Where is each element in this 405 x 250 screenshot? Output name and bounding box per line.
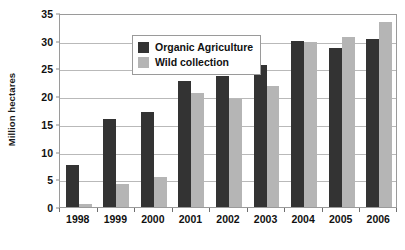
bar-2000-organic-agriculture xyxy=(141,112,154,207)
y-axis-title: Million hectares xyxy=(0,0,24,218)
x-axis-tick-label-1999: 1999 xyxy=(104,214,127,225)
x-axis-tick-mark xyxy=(134,208,135,212)
bar-2003-organic-agriculture xyxy=(254,65,267,207)
y-axis-tick-label: 20 xyxy=(41,92,53,103)
bar-group-2005 xyxy=(323,15,361,207)
bar-2002-wild-collection xyxy=(229,99,242,207)
bar-1999-wild-collection xyxy=(116,184,129,207)
bar-1998-organic-agriculture xyxy=(66,165,79,207)
bar-2001-wild-collection xyxy=(191,93,204,207)
x-axis-tick-mark xyxy=(359,208,360,212)
bar-2005-wild-collection xyxy=(342,37,355,207)
x-axis-tick-mark xyxy=(59,208,60,212)
legend-label-organic-agriculture: Organic Agriculture xyxy=(155,42,253,53)
bar-2006-organic-agriculture xyxy=(366,39,379,208)
bar-group-1998 xyxy=(60,15,98,207)
y-axis-title-text: Million hectares xyxy=(7,72,18,145)
y-axis-tick-labels: 05101520253035 xyxy=(28,0,56,218)
y-axis-tick-label: 15 xyxy=(41,120,53,131)
x-axis-tick-label-2004: 2004 xyxy=(291,214,314,225)
legend-swatch-organic-agriculture xyxy=(138,42,149,53)
y-axis-tick-label: 0 xyxy=(47,203,53,214)
x-axis-tick-labels: 199819992000200120022003200420052006 xyxy=(59,214,397,234)
x-axis-tick-label-2002: 2002 xyxy=(216,214,239,225)
bar-group-1999 xyxy=(98,15,136,207)
x-axis-tick-label-2003: 2003 xyxy=(254,214,277,225)
bar-2004-wild-collection xyxy=(304,42,317,207)
legend-item-wild-collection: Wild collection xyxy=(138,55,253,70)
bar-2003-wild-collection xyxy=(267,86,280,207)
legend-item-organic-agriculture: Organic Agriculture xyxy=(138,40,253,55)
legend-label-wild-collection: Wild collection xyxy=(155,57,229,68)
y-axis-tick-label: 35 xyxy=(41,9,53,20)
plot-area: Organic Agriculture Wild collection xyxy=(59,14,397,208)
x-axis-tick-mark xyxy=(247,208,248,212)
x-axis-tick-mark xyxy=(284,208,285,212)
bar-2001-organic-agriculture xyxy=(178,81,191,207)
y-axis-tick-label: 25 xyxy=(41,64,53,75)
y-axis-tick-label: 30 xyxy=(41,36,53,47)
chart-legend: Organic Agriculture Wild collection xyxy=(132,35,261,75)
x-axis-tick-label-2001: 2001 xyxy=(179,214,202,225)
x-axis-tick-label-2005: 2005 xyxy=(329,214,352,225)
bar-2006-wild-collection xyxy=(379,22,392,207)
x-axis-tick-label-2006: 2006 xyxy=(367,214,390,225)
bar-2000-wild-collection xyxy=(154,177,167,207)
x-axis-tick-mark xyxy=(396,208,397,212)
x-axis-tick-mark xyxy=(209,208,210,212)
bar-group-2004 xyxy=(285,15,323,207)
bar-2005-organic-agriculture xyxy=(329,48,342,207)
x-axis-tick-label-1998: 1998 xyxy=(66,214,89,225)
bar-2004-organic-agriculture xyxy=(291,41,304,207)
bar-1998-wild-collection xyxy=(79,204,92,207)
y-axis-tick-label: 10 xyxy=(41,147,53,158)
x-axis-tick-label-2000: 2000 xyxy=(141,214,164,225)
legend-swatch-wild-collection xyxy=(138,57,149,68)
bar-1999-organic-agriculture xyxy=(103,119,116,207)
x-axis-tick-mark xyxy=(172,208,173,212)
x-axis-tick-mark xyxy=(322,208,323,212)
x-axis-tick-mark xyxy=(97,208,98,212)
y-axis-tick-label: 5 xyxy=(47,175,53,186)
bar-2002-organic-agriculture xyxy=(216,76,229,207)
bar-chart: Million hectares 05101520253035 Organic … xyxy=(0,0,405,250)
bar-group-2006 xyxy=(360,15,398,207)
